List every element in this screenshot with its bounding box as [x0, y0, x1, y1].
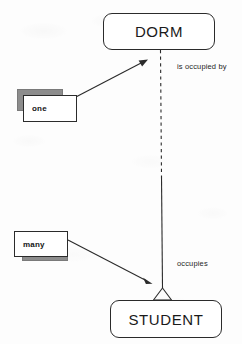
relationship-label-occupies: occupies: [177, 259, 208, 268]
crows-foot-right-prong: [163, 288, 172, 300]
er-diagram-canvas: DORM STUDENT is occupied by occupies one…: [0, 0, 242, 344]
cardinality-note-one[interactable]: one: [17, 89, 77, 122]
entity-dorm[interactable]: DORM: [103, 13, 215, 50]
entity-student-label: STUDENT: [128, 311, 203, 328]
entity-student[interactable]: STUDENT: [110, 300, 222, 338]
entity-dorm-label: DORM: [135, 23, 183, 40]
cardinality-note-many[interactable]: many: [14, 231, 76, 264]
leader-arrowhead-one: [139, 60, 148, 67]
leader-line-many: [68, 240, 147, 281]
relationship-label-is-occupied-by: is occupied by: [177, 62, 227, 71]
cardinality-note-many-card: many: [14, 231, 68, 257]
relationship-line-solid: [162, 176, 163, 288]
cardinality-note-many-label: many: [15, 240, 45, 249]
cardinality-note-one-label: one: [24, 104, 47, 113]
paper-scan-texture: [0, 0, 242, 344]
cardinality-note-one-card: one: [23, 95, 77, 122]
diagram-connectors: [0, 0, 242, 344]
relationship-line-dashed: [161, 50, 162, 176]
leader-line-one: [72, 62, 143, 99]
crows-foot-left-prong: [154, 288, 163, 300]
leader-arrowhead-many: [143, 278, 152, 284]
